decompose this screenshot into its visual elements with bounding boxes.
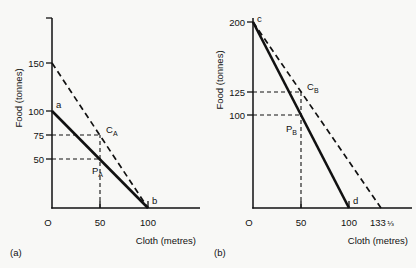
point-label-CA: CA <box>106 124 118 137</box>
chart-b-svg: 200 125 100 O 50 100 133⅓ c d CB PB Food… <box>208 0 416 268</box>
y-ticklabel-200-b: 200 <box>229 17 245 28</box>
x-ticklabel-50-a: 50 <box>95 217 106 228</box>
x-ticklabel-100-a: 100 <box>140 217 156 228</box>
point-label-d-b: d <box>353 195 358 206</box>
chart-a-svg: 150 100 75 50 O 50 100 a b CA PA Food (t… <box>0 0 208 268</box>
y-ticklabel-100-a: 100 <box>28 106 44 117</box>
y-ticklabel-125-b: 125 <box>229 87 245 98</box>
x-axis-title-a: Cloth (metres) <box>136 235 196 246</box>
y-ticklabel-75-a: 75 <box>33 130 44 141</box>
x-axis-title-b: Cloth (metres) <box>348 235 408 246</box>
y-ticklabel-150-a: 150 <box>28 58 44 69</box>
panel-label-b: (b) <box>214 247 226 258</box>
y-ticklabel-100-b: 100 <box>229 110 245 121</box>
panel-a: 150 100 75 50 O 50 100 a b CA PA Food (t… <box>0 0 208 268</box>
y-ticklabel-50-a: 50 <box>33 154 44 165</box>
x-ticklabel-100-b: 100 <box>341 217 357 228</box>
x-ticklabel-50-b: 50 <box>296 217 307 228</box>
panel-label-a: (a) <box>10 247 22 258</box>
origin-label-b: O <box>245 217 252 228</box>
point-label-c-b: c <box>257 13 262 24</box>
y-axis-title-b: Food (tonnes) <box>214 50 225 109</box>
point-label-CB: CB <box>307 81 319 94</box>
point-label-PB: PB <box>286 123 297 136</box>
point-label-PA: PA <box>92 165 103 178</box>
point-label-b-a: b <box>152 195 157 206</box>
origin-label-a: O <box>44 217 51 228</box>
panel-b: 200 125 100 O 50 100 133⅓ c d CB PB Food… <box>208 0 416 268</box>
y-axis-title-a: Food (tonnes) <box>13 68 24 127</box>
x-ticklabel-133-b: 133⅓ <box>370 217 394 228</box>
two-panel-trade-diagram: 150 100 75 50 O 50 100 a b CA PA Food (t… <box>0 0 416 268</box>
consumption-line-b <box>253 22 381 208</box>
point-label-a-a: a <box>56 99 62 110</box>
